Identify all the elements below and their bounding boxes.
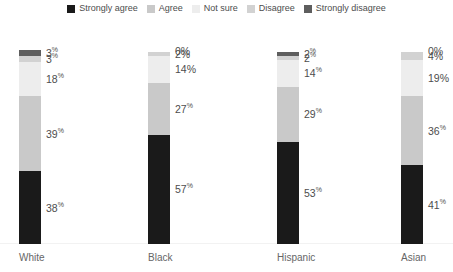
chart-baseline [0,243,453,244]
chart-legend: Strongly agreeAgreeNot sureDisagreeStron… [0,4,453,13]
legend-item-label: Not sure [204,4,238,13]
bar-segment[interactable]: 38% [19,171,41,244]
bar-segment[interactable]: 19% [401,60,423,96]
bar-segment[interactable]: 53% [277,142,299,244]
legend-item-label: Strongly agree [79,4,138,13]
bar-segment[interactable]: 36% [401,96,423,165]
bar-segment-label: 4% [428,51,443,62]
bar-segment[interactable]: 39% [19,96,41,171]
legend-item-label: Strongly disagree [316,4,386,13]
stacked-bar[interactable]: 0%4%19%36%41% [401,52,423,244]
bar-segment-label: 41% [428,199,446,210]
bar-segment-label: 53% [304,188,322,199]
bar-segment[interactable]: 57% [148,135,170,244]
bar-segment-label: 14% [304,68,322,79]
bar-segment-label: 39% [46,128,64,139]
bar-segment-label: 57% [175,184,193,195]
bar-segment-label: 14% [175,64,196,75]
bar-segment-label: 27% [175,103,193,114]
bar-segment-label: 2% [304,53,316,64]
square-swatch-icon [192,5,200,13]
bar-segment-label: 3% [46,54,58,65]
legend-item[interactable]: Agree [147,4,183,13]
bar-segment-label: 18% [46,74,64,85]
legend-item[interactable]: Strongly agree [67,4,138,13]
bar-segment[interactable]: 27% [148,83,170,135]
legend-item[interactable]: Not sure [192,4,238,13]
bar-segment-label: 19% [428,73,449,84]
bar-segment-label: 36% [428,125,446,136]
category-label: Asian [401,253,426,263]
square-swatch-icon [304,5,312,13]
stacked-bar[interactable]: 2%2%14%29%53% [277,52,299,244]
legend-item[interactable]: Disagree [247,4,295,13]
bar-segment[interactable]: 4% [401,52,423,60]
square-swatch-icon [247,5,255,13]
square-swatch-icon [147,5,155,13]
bar-segment[interactable]: 14% [277,60,299,87]
chart-plot-area: 3%3%18%39%38%White0%2%14%27%57%Black2%2%… [0,30,453,272]
bar-segment[interactable]: 14% [148,56,170,83]
legend-item-label: Disagree [259,4,295,13]
legend-item[interactable]: Strongly disagree [304,4,386,13]
stacked-bar[interactable]: 3%3%18%39%38% [19,50,41,244]
category-label: White [19,253,45,263]
bar-segment-label: 2% [175,49,190,60]
category-label: Black [148,253,172,263]
square-swatch-icon [67,5,75,13]
bar-segment-label: 38% [46,202,64,213]
bar-segment[interactable]: 41% [401,165,423,244]
category-label: Hispanic [277,253,315,263]
bar-segment[interactable]: 29% [277,87,299,143]
legend-item-label: Agree [159,4,183,13]
bar-segment-label: 29% [304,109,322,120]
stacked-bar[interactable]: 0%2%14%27%57% [148,52,170,244]
bar-segment[interactable]: 18% [19,62,41,97]
